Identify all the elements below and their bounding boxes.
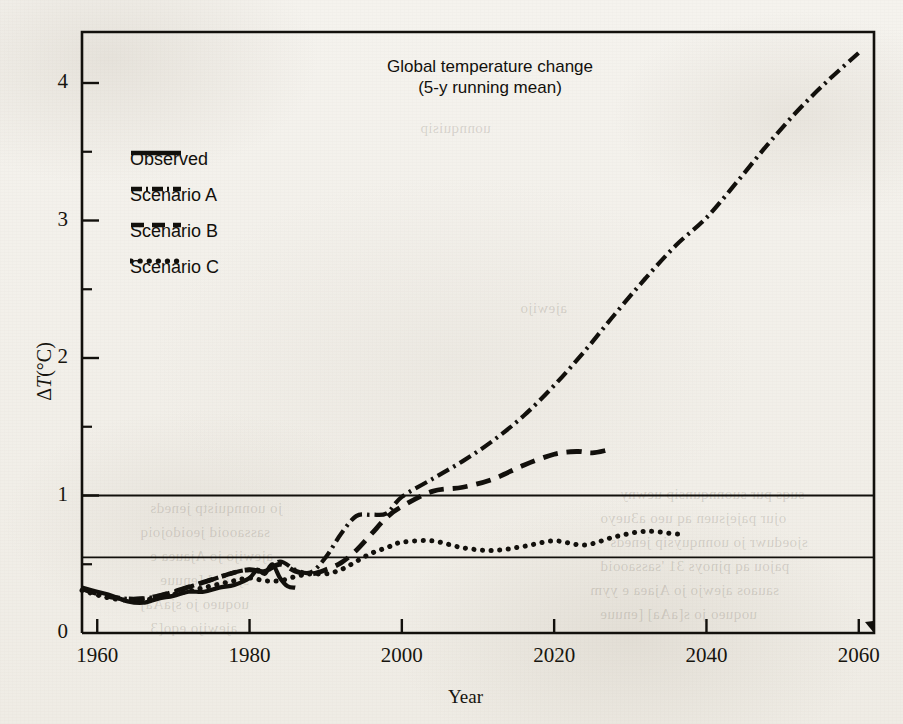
y-tick-label-0: 0 — [40, 619, 68, 644]
plot-frame — [82, 32, 874, 633]
x-tick-label-2040: 2040 — [676, 643, 736, 668]
y-axis-title: ΔT(°C) — [33, 327, 56, 417]
series-line-scenario-a — [82, 53, 859, 599]
legend-item-observed[interactable]: Observed — [130, 146, 208, 172]
legend-swatch-dashed-icon — [130, 218, 182, 232]
y-tick-label-4: 4 — [40, 69, 68, 94]
x-tick-label-2060: 2060 — [829, 643, 889, 668]
x-axis-title: Year — [448, 686, 483, 708]
x-tick-label-2000: 2000 — [372, 643, 432, 668]
series-line-scenario-b — [82, 450, 607, 599]
legend-swatch-dotted-icon — [130, 254, 182, 268]
legend-item-scenario-a[interactable]: Scenario A — [130, 182, 217, 208]
legend-swatch-solid-icon — [130, 146, 182, 160]
series-line-scenario-c — [82, 531, 684, 600]
x-tick-label-1980: 1980 — [220, 643, 280, 668]
plot-canvas — [0, 0, 903, 724]
y-tick-label-3: 3 — [40, 207, 68, 232]
temperature-change-chart: Global temperature change (5-y running m… — [0, 0, 903, 724]
data-series — [82, 53, 859, 603]
chart-title-line1: Global temperature change — [370, 56, 610, 77]
chart-title-line2: (5-y running mean) — [370, 77, 610, 98]
legend-item-scenario-c[interactable]: Scenario C — [130, 254, 219, 280]
x-tick-label-2020: 2020 — [524, 643, 584, 668]
y-tick-label-2: 2 — [40, 344, 68, 369]
gridlines — [82, 496, 874, 558]
legend-swatch-dash-dot-icon — [130, 182, 182, 196]
y-tick-label-1: 1 — [40, 482, 68, 507]
legend-item-scenario-b[interactable]: Scenario B — [130, 218, 218, 244]
chart-title: Global temperature change (5-y running m… — [370, 56, 610, 99]
x-tick-label-1960: 1960 — [67, 643, 127, 668]
